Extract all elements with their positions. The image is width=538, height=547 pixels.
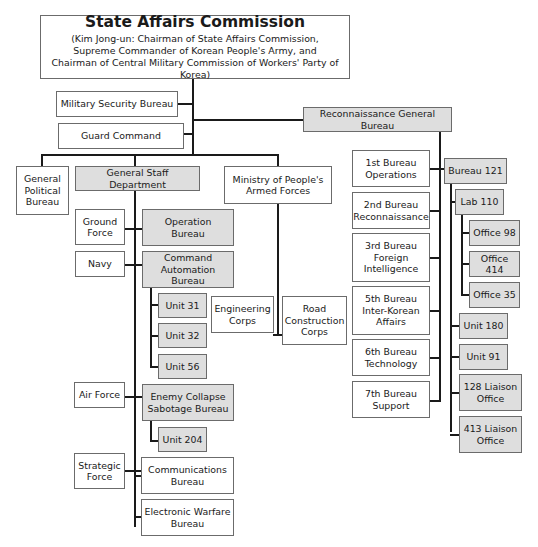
connector bbox=[439, 131, 441, 401]
connector bbox=[430, 257, 441, 259]
electronic-warfare-bureau-box: Electronic Warfare Bureau bbox=[141, 499, 234, 536]
connector bbox=[125, 264, 142, 266]
ministry-peoples-armed-forces-box: Ministry of People's Armed Forces bbox=[224, 166, 332, 204]
connector bbox=[184, 133, 194, 135]
reconnaissance-general-bureau-box: Reconnaissance General Bureau bbox=[303, 107, 452, 132]
connector bbox=[430, 210, 441, 212]
unit-31-box: Unit 31 bbox=[158, 293, 207, 318]
connector bbox=[192, 78, 194, 155]
office-35-box: Office 35 bbox=[469, 282, 520, 308]
connector bbox=[125, 470, 142, 472]
connector bbox=[461, 214, 463, 296]
unit-91-box: Unit 91 bbox=[459, 344, 508, 370]
engineering-corps-box: Engineering Corps bbox=[211, 296, 274, 333]
unit-204-box: Unit 204 bbox=[158, 427, 207, 452]
unit-32-box: Unit 32 bbox=[158, 323, 207, 348]
connector bbox=[134, 154, 136, 166]
connector bbox=[430, 310, 441, 312]
connector bbox=[192, 119, 304, 121]
road-construction-corps-box: Road Construction Corps bbox=[282, 296, 347, 345]
state-affairs-commission-box: State Affairs Commission (Kim Jong-un: C… bbox=[40, 15, 350, 79]
liaison-office-413-box: 413 Liaison Office bbox=[459, 416, 522, 453]
bureau-3-foreign-intelligence-box: 3rd Bureau Foreign Intelligence bbox=[352, 233, 430, 282]
office-98-box: Office 98 bbox=[469, 220, 520, 246]
connector bbox=[125, 228, 142, 230]
connector bbox=[150, 335, 158, 337]
unit-180-box: Unit 180 bbox=[459, 313, 508, 339]
general-staff-department-box: General Staff Department bbox=[75, 166, 200, 191]
connector bbox=[450, 392, 459, 394]
root-subtitle: (Kim Jong-un: Chairman of State Affairs … bbox=[43, 33, 347, 80]
strategic-force-box: Strategic Force bbox=[74, 453, 125, 489]
connector bbox=[450, 325, 459, 327]
navy-box: Navy bbox=[75, 251, 125, 277]
connector bbox=[178, 103, 194, 105]
root-title: State Affairs Commission bbox=[85, 13, 305, 31]
bureau-1-operations-box: 1st Bureau Operations bbox=[352, 150, 430, 187]
military-security-bureau-box: Military Security Bureau bbox=[56, 91, 178, 117]
connector bbox=[277, 154, 279, 166]
bureau-121-box: Bureau 121 bbox=[444, 158, 507, 184]
connector bbox=[150, 366, 158, 368]
connector bbox=[41, 154, 278, 156]
office-414-box: Office 414 bbox=[469, 251, 520, 277]
command-automation-bureau-box: Command Automation Bureau bbox=[142, 251, 234, 288]
connector bbox=[150, 440, 158, 442]
guard-command-box: Guard Command bbox=[58, 123, 184, 149]
operation-bureau-box: Operation Bureau bbox=[142, 209, 234, 246]
connector bbox=[150, 420, 152, 441]
enemy-collapse-sabotage-bureau-box: Enemy Collapse Sabotage Bureau bbox=[142, 384, 234, 421]
general-political-bureau-box: General Political Bureau bbox=[16, 166, 69, 215]
connector bbox=[430, 400, 441, 402]
liaison-office-128-box: 128 Liaison Office bbox=[459, 374, 522, 411]
lab-110-box: Lab 110 bbox=[455, 189, 504, 215]
bureau-2-reconnaissance-box: 2nd Bureau Reconnaissance bbox=[352, 192, 430, 229]
unit-56-box: Unit 56 bbox=[158, 354, 207, 379]
connector bbox=[41, 154, 43, 166]
connector bbox=[430, 357, 441, 359]
bureau-5-inter-korean-affairs-box: 5th Bureau Inter-Korean Affairs bbox=[352, 286, 430, 335]
connector bbox=[450, 434, 459, 436]
connector bbox=[277, 204, 279, 336]
connector bbox=[150, 287, 152, 367]
communications-bureau-box: Communications Bureau bbox=[141, 457, 234, 494]
bureau-6-technology-box: 6th Bureau Technology bbox=[352, 339, 430, 376]
bureau-7-support-box: 7th Bureau Support bbox=[352, 381, 430, 418]
ground-force-box: Ground Force bbox=[75, 209, 125, 245]
connector bbox=[450, 183, 452, 432]
connector bbox=[150, 304, 158, 306]
connector bbox=[125, 396, 142, 398]
connector bbox=[450, 356, 459, 358]
air-force-box: Air Force bbox=[74, 382, 125, 408]
